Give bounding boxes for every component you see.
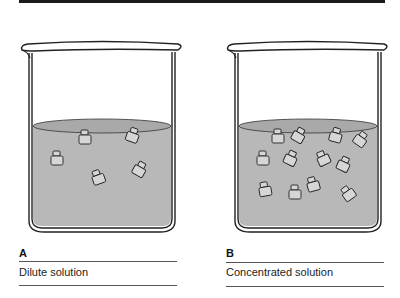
rule-b-bottom (226, 286, 384, 287)
caption-b: Concentrated solution (226, 266, 333, 278)
caption-a: Dilute solution (19, 266, 88, 278)
rule-b-top (226, 262, 384, 263)
rule-a-top (19, 261, 177, 262)
beaker-b-drawing (218, 38, 398, 238)
beaker-b (218, 38, 398, 238)
rule-a-bottom (19, 285, 177, 286)
beaker-a-drawing (12, 38, 192, 238)
beaker-a (12, 38, 192, 238)
panel-letter-a: A (19, 247, 27, 259)
panel-letter-b: B (226, 247, 234, 259)
top-rule (19, 0, 385, 3)
